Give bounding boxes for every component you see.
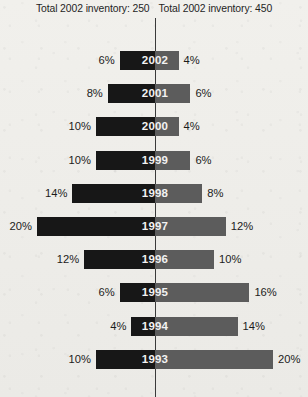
bar-right xyxy=(155,84,190,103)
left-percent-label: 6% xyxy=(98,283,114,302)
bar-right xyxy=(155,184,202,203)
header-label-right: Total 2002 inventory: 450 xyxy=(159,3,273,14)
right-percent-label: 16% xyxy=(254,283,276,302)
bar-row: 199814%8% xyxy=(0,180,308,213)
bar-left xyxy=(84,250,155,269)
bar-left xyxy=(120,283,155,302)
bar-right xyxy=(155,51,179,70)
bar-left xyxy=(96,117,155,136)
bar-left xyxy=(131,317,155,336)
bar-row: 199310%20% xyxy=(0,346,308,379)
bar-left xyxy=(96,350,155,369)
bar-row: 19956%16% xyxy=(0,279,308,312)
right-percent-label: 10% xyxy=(219,250,241,269)
bar-row: 19944%14% xyxy=(0,313,308,346)
bar-right xyxy=(155,317,238,336)
right-percent-label: 14% xyxy=(243,317,265,336)
bar-right xyxy=(155,217,226,236)
bar-left xyxy=(96,151,155,170)
right-percent-label: 4% xyxy=(184,51,200,70)
bar-right xyxy=(155,250,214,269)
left-percent-label: 10% xyxy=(69,151,91,170)
bar-left xyxy=(37,217,155,236)
chart-container: Total 2002 inventory: 250 Total 2002 inv… xyxy=(0,0,308,397)
right-percent-label: 4% xyxy=(184,117,200,136)
right-percent-label: 12% xyxy=(231,217,253,236)
left-percent-label: 12% xyxy=(57,250,79,269)
left-percent-label: 4% xyxy=(110,317,126,336)
bar-right xyxy=(155,350,273,369)
right-percent-label: 20% xyxy=(278,350,300,369)
bar-right xyxy=(155,117,179,136)
left-percent-label: 14% xyxy=(45,184,67,203)
bar-row: 20026%4% xyxy=(0,47,308,80)
right-percent-label: 8% xyxy=(207,184,223,203)
bar-row: 199910%6% xyxy=(0,147,308,180)
bar-row: 200010%4% xyxy=(0,113,308,146)
bar-left xyxy=(108,84,155,103)
left-percent-label: 20% xyxy=(10,217,32,236)
right-percent-label: 6% xyxy=(195,151,211,170)
left-percent-label: 6% xyxy=(98,51,114,70)
left-percent-label: 10% xyxy=(69,350,91,369)
bar-row: 199612%10% xyxy=(0,246,308,279)
bar-right xyxy=(155,151,190,170)
chart-header: Total 2002 inventory: 250 Total 2002 inv… xyxy=(0,3,308,19)
header-label-left: Total 2002 inventory: 250 xyxy=(36,3,150,14)
bar-row: 199720%12% xyxy=(0,213,308,246)
right-percent-label: 6% xyxy=(195,84,211,103)
bar-row: 20018%6% xyxy=(0,80,308,113)
bar-right xyxy=(155,283,249,302)
bar-left xyxy=(72,184,155,203)
left-percent-label: 10% xyxy=(69,117,91,136)
bar-rows: 20026%4%20018%6%200010%4%199910%6%199814… xyxy=(0,47,308,379)
bar-left xyxy=(120,51,155,70)
left-percent-label: 8% xyxy=(87,84,103,103)
